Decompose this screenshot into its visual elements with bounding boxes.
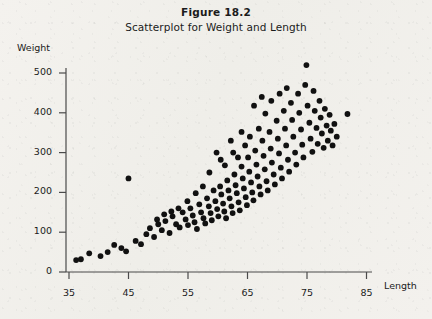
figure-container: Figure 18.2 Scatterplot for Weight and L… [0,0,432,319]
y-tick-label: 0 [18,265,52,276]
data-point [218,191,224,197]
data-point [274,118,280,124]
y-axis-ticks [59,73,66,272]
data-point [86,250,92,256]
data-point [235,154,241,160]
scatterplot-canvas [0,0,432,319]
data-point [304,62,310,68]
data-point [275,136,281,142]
data-point [314,125,320,131]
data-point [321,145,327,151]
data-point [214,206,220,212]
data-point [240,176,246,182]
data-point [190,213,196,219]
data-point [255,174,261,180]
data-point [311,88,317,94]
data-point [286,169,292,175]
data-point [201,215,207,221]
data-point [290,134,296,140]
data-point [234,190,240,196]
data-point [322,106,328,112]
data-point [126,176,132,182]
data-point [232,172,238,178]
x-tick-label: 45 [117,287,141,298]
axes-group [66,68,372,272]
data-point [233,182,239,188]
data-point [251,197,257,203]
data-point [212,198,218,204]
data-point [236,199,242,205]
data-point [246,169,252,175]
data-point [226,188,232,194]
data-point [245,154,251,160]
data-point [147,225,153,231]
data-point [209,217,215,223]
data-point [185,198,191,204]
data-point [308,136,314,142]
data-point [325,138,331,144]
data-point [151,234,157,240]
data-point [279,176,285,182]
data-point [302,82,308,88]
data-point [133,238,139,244]
data-point [296,110,302,116]
data-point [198,209,204,215]
data-point [289,117,295,123]
data-point [305,103,311,109]
data-point [224,178,230,184]
data-point [282,126,288,132]
data-point [257,184,263,190]
data-point [259,138,265,144]
y-tick-label: 400 [18,106,52,117]
data-point [215,213,221,219]
data-point [98,253,104,259]
data-point [306,120,312,126]
data-point [315,141,321,147]
data-point [159,227,165,233]
data-point [247,134,253,140]
data-point [228,138,234,144]
data-point [283,143,289,149]
y-tick-label: 500 [18,66,52,77]
data-point [227,195,233,201]
data-point [345,111,351,117]
data-point [244,202,250,208]
data-point [162,218,168,224]
data-point [309,149,315,155]
data-point [292,150,298,156]
data-point [221,209,227,215]
data-point [276,151,282,157]
data-point [211,188,217,194]
data-point [268,98,274,104]
x-tick-label: 85 [355,287,379,298]
data-point [154,217,160,223]
data-point [248,180,254,186]
data-point [206,203,212,209]
data-point [271,172,277,178]
data-point [324,123,330,129]
data-point [202,221,208,227]
data-point [328,128,334,134]
data-point [192,219,198,225]
y-tick-label: 100 [18,225,52,236]
data-point [261,153,267,159]
data-point [220,201,226,207]
y-tick-label: 300 [18,146,52,157]
data-point [252,148,258,154]
data-point [183,217,189,223]
data-point [214,150,220,156]
data-point [317,98,323,104]
data-point [295,91,301,97]
data-point [330,143,336,149]
data-point [222,162,228,168]
data-point [256,126,262,132]
data-point [298,127,304,133]
data-point [118,245,124,251]
data-point [301,154,307,160]
data-point [241,186,247,192]
data-point [284,85,290,91]
data-point [259,94,265,100]
data-point [251,103,257,109]
data-point [138,241,144,247]
data-point [243,194,249,200]
